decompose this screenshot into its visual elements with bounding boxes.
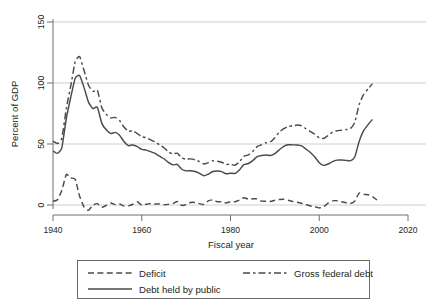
- legend-label-debt-held-by-public: Debt held by public: [139, 284, 221, 295]
- x-tick-label-2020: 2020: [398, 225, 417, 235]
- y-axis-title: Percent of GDP: [9, 81, 20, 148]
- y-tick-label-100: 100: [36, 76, 46, 91]
- y-tick-label-50: 50: [36, 139, 46, 149]
- chart-figure: 050100150 19401960198020002020 Percent o…: [0, 0, 442, 307]
- legend-label-gross-federal-debt: Gross federal debt: [294, 268, 373, 279]
- legend-border: [78, 261, 370, 299]
- y-tick-label-150: 150: [36, 15, 46, 30]
- gdp-debt-line-chart: 050100150 19401960198020002020 Percent o…: [0, 0, 442, 307]
- x-tick-label-1940: 1940: [43, 225, 62, 235]
- x-tick-label-1980: 1980: [221, 225, 240, 235]
- legend-label-deficit: Deficit: [139, 268, 166, 279]
- y-tick-label-0: 0: [36, 202, 46, 207]
- chart-legend: DeficitGross federal debtDebt held by pu…: [78, 261, 374, 299]
- x-axis-title: Fiscal year: [208, 239, 254, 250]
- x-tick-label-1960: 1960: [132, 225, 151, 235]
- x-tick-label-2000: 2000: [310, 225, 329, 235]
